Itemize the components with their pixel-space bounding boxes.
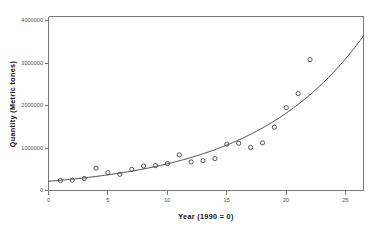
y-tick-label-2: 2000000: [21, 102, 43, 108]
y-tick-label-4: 4000000: [21, 17, 43, 23]
y-axis-title: Quantity (Metric tones): [8, 61, 17, 148]
y-tick-label-0: 0: [40, 187, 43, 193]
y-tick-label-3: 3000000: [21, 60, 43, 66]
chart-figure: 0 1000000 2000000 3000000 4000000 0 5 10…: [0, 0, 380, 232]
x-tick-label-5: 25: [342, 197, 348, 203]
figure-background: [0, 0, 380, 232]
x-tick-label-2: 10: [164, 197, 170, 203]
y-tick-label-1: 1000000: [21, 145, 43, 151]
x-tick-label-4: 20: [283, 197, 289, 203]
chart-svg: 0 1000000 2000000 3000000 4000000 0 5 10…: [0, 0, 380, 232]
x-tick-label-0: 0: [47, 197, 50, 203]
x-tick-label-1: 5: [106, 197, 109, 203]
x-tick-label-3: 15: [224, 197, 230, 203]
x-axis-title: Year (1990 = 0): [178, 212, 234, 221]
